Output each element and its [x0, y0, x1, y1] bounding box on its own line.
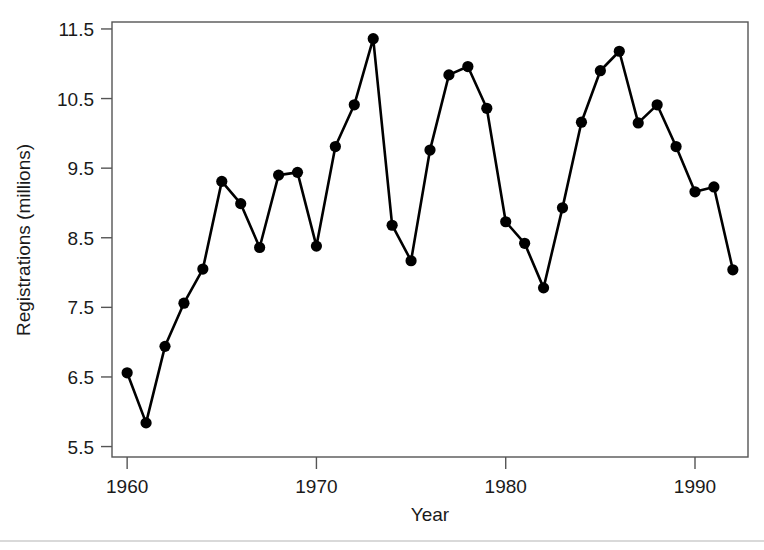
y-axis-title: Registrations (millions)	[13, 144, 34, 336]
data-point-marker	[235, 198, 246, 209]
x-axis-title: Year	[411, 504, 450, 525]
data-point-marker	[481, 103, 492, 114]
y-tick-label: 7.5	[68, 297, 94, 318]
data-point-marker	[387, 220, 398, 231]
data-point-marker	[159, 341, 170, 352]
data-point-marker	[689, 186, 700, 197]
plot-area-frame	[112, 22, 748, 457]
y-tick-label: 11.5	[58, 19, 94, 40]
data-point-marker	[538, 282, 549, 293]
data-point-marker	[595, 65, 606, 76]
data-point-marker	[443, 69, 454, 80]
data-point-marker	[727, 264, 738, 275]
data-point-marker	[424, 144, 435, 155]
data-point-marker	[292, 167, 303, 178]
data-point-markers	[122, 33, 739, 428]
data-point-marker	[557, 202, 568, 213]
data-point-marker	[122, 367, 133, 378]
y-tick-label: 9.5	[68, 158, 94, 179]
data-series-line	[127, 39, 733, 423]
y-tick-label: 6.5	[68, 367, 94, 388]
data-point-marker	[519, 238, 530, 249]
data-point-marker	[254, 242, 265, 253]
chart-figure: 5.56.57.58.59.510.511.5 1960197019801990…	[0, 0, 764, 550]
data-point-marker	[405, 255, 416, 266]
data-point-marker	[500, 216, 511, 227]
y-axis-tick-labels: 5.56.57.58.59.510.511.5	[57, 19, 94, 458]
x-axis-tick-labels: 1960197019801990	[106, 476, 716, 497]
data-point-marker	[273, 170, 284, 181]
data-point-marker	[349, 99, 360, 110]
line-chart: 5.56.57.58.59.510.511.5 1960197019801990…	[0, 0, 764, 550]
y-tick-label: 10.5	[57, 89, 94, 110]
x-axis-ticks	[127, 457, 695, 469]
data-point-marker	[708, 181, 719, 192]
y-axis-ticks	[101, 29, 112, 447]
data-point-marker	[216, 176, 227, 187]
data-point-marker	[311, 241, 322, 252]
data-point-marker	[197, 263, 208, 274]
data-point-marker	[576, 117, 587, 128]
data-point-marker	[140, 417, 151, 428]
data-point-marker	[614, 46, 625, 57]
data-point-marker	[462, 61, 473, 72]
data-point-marker	[652, 99, 663, 110]
y-tick-label: 5.5	[68, 437, 94, 458]
data-point-marker	[670, 141, 681, 152]
data-point-marker	[633, 117, 644, 128]
data-point-marker	[178, 298, 189, 309]
x-tick-label: 1990	[674, 476, 716, 497]
y-tick-label: 8.5	[68, 228, 94, 249]
x-tick-label: 1960	[106, 476, 148, 497]
data-point-marker	[368, 33, 379, 44]
data-point-marker	[330, 141, 341, 152]
x-tick-label: 1980	[485, 476, 527, 497]
x-tick-label: 1970	[295, 476, 337, 497]
